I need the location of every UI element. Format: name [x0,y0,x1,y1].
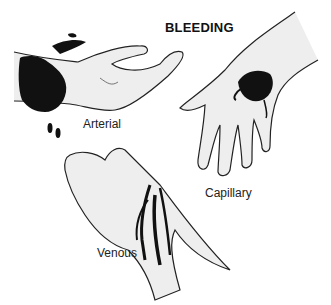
venous-hand [65,148,230,300]
label-capillary: Capillary [205,186,252,200]
bleeding-illustration: BLEEDING Arterial Capillary Venous [0,0,331,305]
title: BLEEDING [165,20,234,35]
label-venous: Venous [97,246,137,260]
capillary-hand [180,12,318,176]
label-arterial: Arterial [83,117,121,131]
hands-drawing [0,0,331,305]
